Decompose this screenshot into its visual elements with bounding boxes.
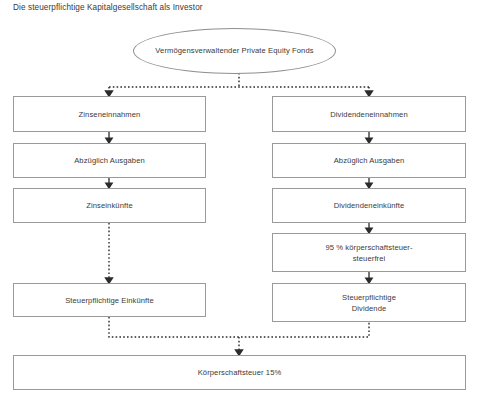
source-node-fund: Vermögensverwaltender Private Equity Fon…: [133, 28, 336, 74]
node-zinseneinnahmen: Zinseneinnahmen: [13, 96, 206, 132]
diagram-title: Die steuerpflichtige Kapitalgesellschaft…: [13, 3, 203, 12]
node-label-line1: 95 % körperschaftsteuer-: [325, 242, 412, 253]
node-label: Abzüglich Ausgaben: [74, 155, 145, 166]
node-label: Steuerpflichtige Einkünfte: [65, 295, 154, 306]
node-label-line2: steuerfrei: [325, 253, 412, 264]
node-label-line2: Dividende: [342, 303, 396, 314]
node-label: Abzüglich Ausgaben: [334, 155, 405, 166]
node-label: Zinseneinnahmen: [79, 109, 141, 120]
source-node-line1: Vermögensverwaltender: [155, 46, 239, 55]
node-abzuglich-ausgaben-dividenden: Abzüglich Ausgaben: [272, 143, 466, 178]
node-label-line1: Steuerpflichtige: [342, 292, 396, 303]
node-abzuglich-ausgaben-zinsen: Abzüglich Ausgaben: [13, 143, 206, 178]
diagram-canvas: Die steuerpflichtige Kapitalgesellschaft…: [0, 0, 479, 410]
node-steuerpflichtige-dividende: Steuerpflichtige Dividende: [272, 283, 466, 322]
source-node-line2: Private Equity Fonds: [242, 46, 314, 55]
node-label: Körperschaftsteuer 15%: [198, 367, 282, 378]
node-label: Dividendeneinnahmen: [330, 109, 407, 120]
node-label: Dividendeneinkünfte: [334, 200, 405, 211]
node-label: Zinseinkünfte: [86, 200, 132, 211]
node-dividendeneinkuenfte: Dividendeneinkünfte: [272, 188, 466, 223]
node-zinseinkuenfte: Zinseinkünfte: [13, 188, 206, 223]
node-95-prozent-koerperschaftsteuerfrei: 95 % körperschaftsteuer- steuerfrei: [272, 233, 466, 272]
node-dividendeneinnahmen: Dividendeneinnahmen: [272, 96, 466, 132]
node-koerperschaftsteuer-result: Körperschaftsteuer 15%: [13, 355, 466, 390]
node-steuerpflichtige-einkuenfte: Steuerpflichtige Einkünfte: [13, 283, 206, 317]
